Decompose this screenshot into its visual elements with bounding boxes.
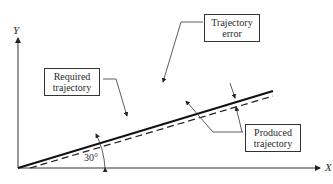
error-arrow-bottom xyxy=(236,107,242,132)
trajectory-error-label: Trajectory error xyxy=(204,14,260,42)
x-axis-label: X xyxy=(325,161,332,173)
produced-trajectory-label: Produced trajectory xyxy=(245,124,301,152)
label-line: Trajectory xyxy=(208,17,256,28)
label-line: Produced xyxy=(249,127,297,138)
produced-leader xyxy=(186,101,243,132)
label-line: trajectory xyxy=(249,138,297,149)
label-line: Required xyxy=(48,71,96,82)
required-leader xyxy=(103,79,127,116)
required-trajectory-label: Required trajectory xyxy=(44,68,100,96)
error-arrow-top xyxy=(230,83,235,98)
label-line: trajectory xyxy=(48,82,96,93)
angle-label: 30° xyxy=(84,152,98,163)
label-line: error xyxy=(208,28,256,39)
error-leader xyxy=(163,22,203,82)
y-axis-label: Y xyxy=(13,24,19,36)
required-trajectory-line xyxy=(18,91,273,168)
